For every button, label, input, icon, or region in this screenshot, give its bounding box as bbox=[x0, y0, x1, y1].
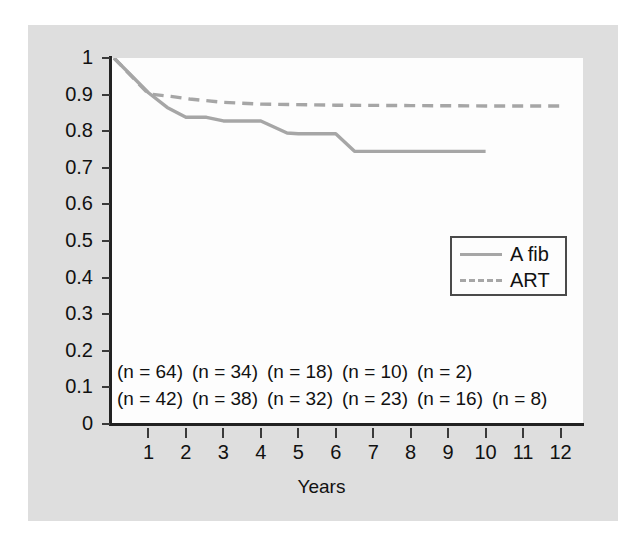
y-axis-tick-label: 0.5 bbox=[35, 230, 93, 250]
y-axis-tick-label: 0.4 bbox=[35, 267, 93, 287]
y-axis-tick bbox=[102, 57, 110, 59]
legend-label-a-fib: A fib bbox=[510, 242, 549, 266]
legend-swatch-dashed-line-icon bbox=[460, 279, 502, 282]
x-axis-tick bbox=[335, 428, 337, 438]
x-axis-tick-label: 7 bbox=[353, 441, 393, 463]
x-axis-tick bbox=[297, 428, 299, 438]
x-axis-title: Years bbox=[0, 476, 643, 498]
x-axis-tick-label: 12 bbox=[541, 441, 581, 463]
x-axis-tick-label: 10 bbox=[466, 441, 506, 463]
x-axis-tick bbox=[260, 428, 262, 438]
x-axis-tick-label: 11 bbox=[503, 441, 543, 463]
y-axis-tick bbox=[102, 313, 110, 315]
y-axis-tick-label: 0.7 bbox=[35, 157, 93, 177]
x-axis-tick bbox=[185, 428, 187, 438]
y-axis-tick-label: 1 bbox=[35, 47, 93, 67]
legend-entry-art: ART bbox=[452, 267, 569, 293]
n-count-label: (n = 38) bbox=[192, 388, 267, 410]
y-axis-tick-label: 0.9 bbox=[35, 84, 93, 104]
y-axis-tick bbox=[102, 240, 110, 242]
x-axis-tick-label: 6 bbox=[316, 441, 356, 463]
n-count-label: (n = 8) bbox=[492, 388, 567, 410]
x-axis-tick bbox=[410, 428, 412, 438]
x-axis-tick-label: 4 bbox=[241, 441, 281, 463]
n-count-label: (n = 2) bbox=[417, 361, 492, 383]
y-axis-tick bbox=[102, 94, 110, 96]
y-axis-tick-label: 0.2 bbox=[35, 340, 93, 360]
x-axis-tick bbox=[560, 428, 562, 438]
y-axis-tick-label: 0.6 bbox=[35, 193, 93, 213]
y-axis-tick bbox=[102, 203, 110, 205]
figure-root: 10.90.80.70.60.50.40.30.20.10 1234567891… bbox=[0, 0, 643, 545]
n-count-label: (n = 23) bbox=[342, 388, 417, 410]
n-count-label: (n = 10) bbox=[342, 361, 417, 383]
x-axis-tick-label: 1 bbox=[128, 441, 168, 463]
legend-swatch-solid-line-icon bbox=[460, 253, 502, 256]
x-axis-tick-label: 8 bbox=[391, 441, 431, 463]
legend-label-art: ART bbox=[510, 268, 550, 292]
y-axis-tick bbox=[102, 130, 110, 132]
legend: A fib ART bbox=[450, 236, 567, 296]
x-axis-tick-label: 5 bbox=[278, 441, 318, 463]
y-axis-tick bbox=[102, 277, 110, 279]
y-axis-tick bbox=[102, 350, 110, 352]
n-count-label: (n = 34) bbox=[192, 361, 267, 383]
legend-entry-a-fib: A fib bbox=[452, 241, 569, 267]
n-count-label: (n = 18) bbox=[267, 361, 342, 383]
y-axis-tick bbox=[102, 386, 110, 388]
y-axis-tick-label: 0.3 bbox=[35, 303, 93, 323]
y-axis-tick bbox=[102, 423, 110, 425]
x-axis-tick bbox=[147, 428, 149, 438]
y-axis-tick-label: 0.8 bbox=[35, 120, 93, 140]
y-axis-tick-label: 0.1 bbox=[35, 376, 93, 396]
x-axis-tick-label: 3 bbox=[203, 441, 243, 463]
x-axis-tick-label: 9 bbox=[428, 441, 468, 463]
x-axis-tick bbox=[372, 428, 374, 438]
x-axis-line bbox=[109, 423, 584, 426]
y-axis-tick-label: 0 bbox=[35, 413, 93, 433]
x-axis-tick bbox=[447, 428, 449, 438]
n-count-label: (n = 64) bbox=[117, 361, 192, 383]
x-axis-tick-label: 2 bbox=[166, 441, 206, 463]
n-counts-row-a-fib: (n = 64)(n = 34)(n = 18)(n = 10)(n = 2) bbox=[117, 361, 492, 383]
x-axis-tick bbox=[222, 428, 224, 438]
x-axis-tick bbox=[522, 428, 524, 438]
n-count-label: (n = 16) bbox=[417, 388, 492, 410]
x-axis-tick bbox=[485, 428, 487, 438]
n-count-label: (n = 42) bbox=[117, 388, 192, 410]
n-counts-row-art: (n = 42)(n = 38)(n = 32)(n = 23)(n = 16)… bbox=[117, 388, 567, 410]
n-count-label: (n = 32) bbox=[267, 388, 342, 410]
y-axis-tick bbox=[102, 167, 110, 169]
series-line-art bbox=[114, 58, 564, 106]
